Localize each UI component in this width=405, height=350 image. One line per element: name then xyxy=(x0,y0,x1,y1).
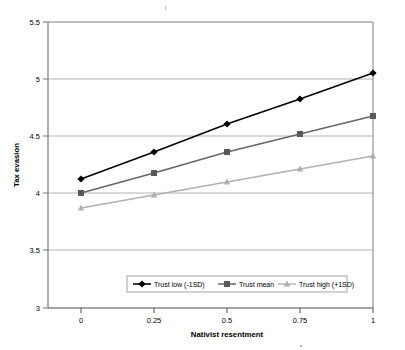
y-tick-label-4: 4 xyxy=(36,189,40,198)
marker-trust-mean-3 xyxy=(297,131,303,137)
x-axis-title: Nativist resentment xyxy=(191,330,264,339)
y-axis-title: Tax evasion xyxy=(12,143,21,187)
x-tick-label-0_25: 0.25 xyxy=(147,316,162,325)
legend-label-trust-low: Trust low (-1SD) xyxy=(154,281,205,289)
x-axis-ticks xyxy=(81,308,373,313)
marker-trust-mean-4 xyxy=(370,113,376,119)
chart-legend[interactable]: Trust low (-1SD) Trust mean Trust high (… xyxy=(127,276,354,292)
legend-marker-square-icon xyxy=(224,281,230,287)
y-tick-label-5_5: 5.5 xyxy=(30,18,40,27)
y-tick-label-3: 3 xyxy=(36,304,40,313)
marker-trust-mean-0 xyxy=(78,190,84,196)
x-tick-label-1: 1 xyxy=(371,316,375,325)
scan-speck xyxy=(300,345,302,347)
marker-trust-mean-1 xyxy=(151,170,157,176)
legend-label-trust-mean: Trust mean xyxy=(239,281,274,288)
legend-label-trust-high: Trust high (+1SD) xyxy=(299,281,354,289)
y-axis-ticks xyxy=(43,22,48,308)
chart-container: 5.5 5 4.5 4 3.5 3 0 0.25 0.5 0.75 1 Nati… xyxy=(0,0,405,350)
line-chart: 5.5 5 4.5 4 3.5 3 0 0.25 0.5 0.75 1 Nati… xyxy=(0,0,405,350)
marker-trust-mean-2 xyxy=(224,149,230,155)
y-tick-label-3_5: 3.5 xyxy=(30,246,40,255)
x-tick-label-0_5: 0.5 xyxy=(222,316,232,325)
y-tick-label-4_5: 4.5 xyxy=(30,132,40,141)
x-tick-label-0: 0 xyxy=(79,316,83,325)
scan-speck xyxy=(165,6,166,10)
y-tick-label-5: 5 xyxy=(36,75,40,84)
x-tick-label-0_75: 0.75 xyxy=(293,316,308,325)
legend-entry-trust-mean[interactable]: Trust mean xyxy=(218,281,274,288)
